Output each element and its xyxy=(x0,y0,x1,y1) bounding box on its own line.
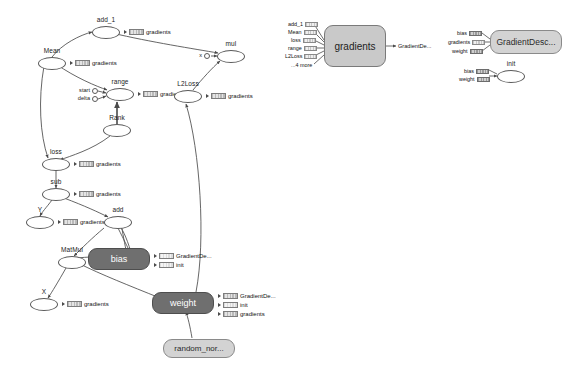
annotation-init-weight[interactable]: init xyxy=(218,302,248,308)
arrow-icon xyxy=(206,94,209,98)
panel-gradient-descent[interactable]: GradientDesc... xyxy=(490,30,562,54)
annotation-label: gradients xyxy=(146,29,171,35)
annotation-gradients-mean[interactable]: gradients xyxy=(70,60,117,66)
node-shape xyxy=(26,216,54,229)
arrow-icon xyxy=(218,294,221,298)
gradients-input-l2loss[interactable]: L2Loss xyxy=(285,53,317,59)
input-label: weight xyxy=(459,76,475,82)
input-label: bias xyxy=(457,30,467,36)
port-shape xyxy=(92,88,98,94)
stack-icon xyxy=(304,30,317,35)
node-label: mul xyxy=(226,40,237,47)
annotation-gradients-x[interactable]: gradients xyxy=(62,301,109,307)
init-input-weight[interactable]: weight xyxy=(459,76,490,82)
namespace-box-bias[interactable]: bias xyxy=(88,248,150,270)
optimizer-input-bias[interactable]: bias xyxy=(457,30,482,36)
annotation-gradients-sub[interactable]: gradients xyxy=(74,191,121,197)
node-shape xyxy=(42,158,70,171)
node-range[interactable]: range xyxy=(106,88,134,101)
node-shape xyxy=(58,256,86,269)
arrow-icon xyxy=(70,61,73,65)
annotation-gradients-weight[interactable]: gradients xyxy=(218,311,265,317)
node-label: add xyxy=(112,206,123,213)
stack-icon xyxy=(303,38,316,43)
namespace-label: bias xyxy=(111,254,128,264)
node-x[interactable]: X xyxy=(30,298,58,311)
node-label: sub xyxy=(51,178,62,185)
node-init[interactable]: init xyxy=(497,70,525,83)
stack-icon xyxy=(477,77,490,82)
input-label: range xyxy=(288,45,302,51)
port-shape xyxy=(204,53,210,59)
arrow-icon xyxy=(62,302,65,306)
input-label: add_1 xyxy=(288,21,303,27)
node-mul[interactable]: mul xyxy=(217,50,245,63)
input-label: loss xyxy=(291,37,301,43)
arrow-icon xyxy=(154,254,157,258)
stack-icon xyxy=(63,219,78,225)
stack-icon xyxy=(304,46,317,51)
annotation-gradients-l2loss[interactable]: gradients xyxy=(206,93,253,99)
annotation-gradients-y[interactable]: gradients xyxy=(58,219,105,225)
annotation-label: GradientDe... xyxy=(176,253,212,259)
namespace-box-weight[interactable]: weight xyxy=(152,292,214,314)
node-rank[interactable]: Rank xyxy=(103,124,131,137)
node-label: Mean xyxy=(44,47,61,54)
annotation-gradients-loss[interactable]: gradients xyxy=(74,161,121,167)
stack-icon xyxy=(470,49,483,54)
node-shape xyxy=(104,216,132,229)
gradients-output[interactable]: GradientDe... xyxy=(396,43,431,49)
annotation-label: gradients xyxy=(84,301,109,307)
node-sub[interactable]: sub xyxy=(42,188,70,201)
namespace-box-random-normal[interactable]: random_nor... xyxy=(163,339,235,358)
stack-icon xyxy=(159,262,174,268)
arrow-icon xyxy=(124,30,127,34)
port-x[interactable]: x xyxy=(204,53,210,59)
node-shape xyxy=(42,188,70,201)
annotation-gradientdescent-weight[interactable]: GradientDe... xyxy=(218,293,276,299)
input-label: Mean xyxy=(288,29,302,35)
stack-icon xyxy=(75,60,90,66)
stack-icon xyxy=(305,22,318,27)
node-l2loss[interactable]: L2Loss xyxy=(174,90,202,103)
gradients-input-add-1[interactable]: add_1 xyxy=(288,21,318,27)
input-label: weight xyxy=(452,48,468,54)
arrow-icon xyxy=(58,220,61,224)
node-shape xyxy=(30,298,58,311)
graph-canvas[interactable]: add_1 gradients Mean gradients mul x ran… xyxy=(0,0,575,380)
stack-icon xyxy=(304,54,317,59)
init-input-bias[interactable]: bias xyxy=(464,68,489,74)
arrow-icon xyxy=(154,263,157,267)
arrow-icon xyxy=(218,303,221,307)
optimizer-input-weight[interactable]: weight xyxy=(452,48,483,54)
port-start[interactable]: start xyxy=(92,88,98,94)
annotation-gradientdescent-bias[interactable]: GradientDe... xyxy=(154,253,212,259)
annotation-gradients-add-1[interactable]: gradients xyxy=(124,29,171,35)
gradients-input-range[interactable]: range xyxy=(288,45,317,51)
node-mean[interactable]: Mean xyxy=(38,57,66,70)
port-label: x xyxy=(199,52,202,58)
node-label: L2Loss xyxy=(177,80,199,87)
stack-icon xyxy=(143,91,158,97)
port-label: start xyxy=(79,87,90,93)
annotation-label: init xyxy=(240,302,248,308)
annotation-init-bias[interactable]: init xyxy=(154,262,184,268)
node-add[interactable]: add xyxy=(104,216,132,229)
panel-gradients[interactable]: gradients xyxy=(324,25,386,67)
node-matmul[interactable]: MatMul xyxy=(58,256,86,269)
node-y[interactable]: Y xyxy=(26,216,54,229)
gradients-input-mean[interactable]: Mean xyxy=(288,29,317,35)
optimizer-input-gradients[interactable]: gradients xyxy=(448,39,485,45)
stack-icon xyxy=(469,31,482,36)
annotation-label: gradients xyxy=(92,60,117,66)
annotation-label: GradientDe... xyxy=(240,293,276,299)
gradients-input-more[interactable]: ...4 more xyxy=(291,62,312,68)
node-shape xyxy=(38,57,66,70)
node-label: MatMul xyxy=(61,246,83,253)
gradients-input-loss[interactable]: loss xyxy=(291,37,316,43)
node-add-1[interactable]: add_1 xyxy=(92,26,120,39)
port-delta[interactable]: delta xyxy=(92,96,98,102)
node-loss[interactable]: loss xyxy=(42,158,70,171)
stack-icon xyxy=(129,29,144,35)
stack-icon xyxy=(79,191,94,197)
